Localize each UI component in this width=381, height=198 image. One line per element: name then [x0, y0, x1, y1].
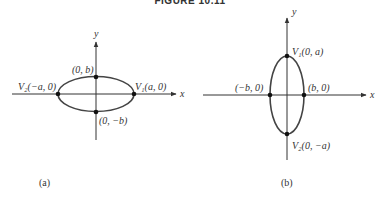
panel-caption: (b)	[281, 177, 293, 189]
covertex-point	[268, 93, 273, 98]
x-axis-label: x	[179, 88, 185, 99]
ellipse-figure: FIGURE 10.11 x y V₂(−a, 0) V₁(a, 0) (0, …	[0, 0, 381, 198]
y-axis-label: y	[291, 6, 297, 17]
panel-a: x y V₂(−a, 0) V₁(a, 0) (0, b) (0, −b) (a…	[12, 28, 185, 189]
point-label-right: V₁(a, 0)	[135, 81, 167, 93]
covertex-point	[94, 110, 99, 115]
figure-title: FIGURE 10.11	[154, 0, 225, 6]
panel-b: x y (−b, 0) (b, 0) V₁(0, a) V₂(0, −a) (b…	[203, 6, 375, 189]
vertex-point	[56, 92, 61, 97]
vertex-point	[132, 92, 137, 97]
point-label-bottom: V₂(0, −a)	[292, 140, 331, 152]
point-label-right: (b, 0)	[308, 82, 330, 94]
point-label-top: (0, b)	[72, 64, 94, 76]
point-label-bottom: (0, −b)	[99, 115, 128, 127]
vertex-point	[285, 54, 290, 59]
covertex-point	[302, 93, 307, 98]
point-label-left: V₂(−a, 0)	[18, 81, 57, 93]
y-axis-label: y	[93, 28, 99, 39]
point-label-top: V₁(0, a)	[292, 46, 324, 58]
vertex-point	[285, 132, 290, 137]
x-axis-label: x	[369, 89, 375, 100]
panel-caption: (a)	[39, 177, 50, 189]
covertex-point	[94, 75, 99, 80]
point-label-left: (−b, 0)	[235, 82, 264, 94]
